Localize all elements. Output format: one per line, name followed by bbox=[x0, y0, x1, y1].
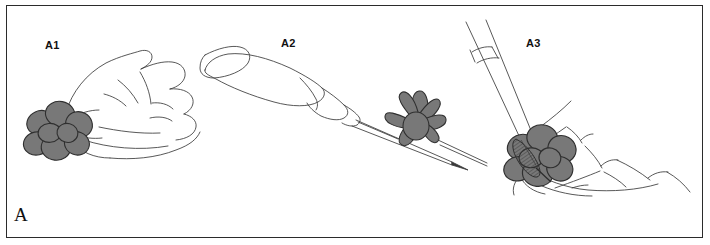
panel-label-a2: A2 bbox=[281, 37, 296, 49]
figure-container: A1 A2 A3 A bbox=[0, 0, 710, 245]
figure-panel-letter: A bbox=[14, 205, 28, 224]
panel-label-a1: A1 bbox=[45, 39, 60, 51]
panel-label-a3: A3 bbox=[526, 37, 541, 49]
figure-frame bbox=[6, 5, 703, 238]
